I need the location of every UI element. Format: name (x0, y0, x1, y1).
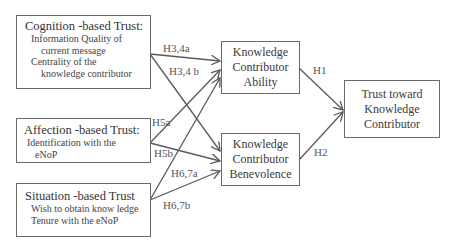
cognition-item-3: Centrality of the (25, 56, 150, 68)
label-h2: H2 (314, 146, 327, 158)
cognition-item-1: Information Quality of (25, 33, 150, 45)
ability-line-3: Ability (243, 75, 277, 90)
benevolence-line-3: Benevolence (230, 167, 292, 182)
benevolence-line-2: Contributor (233, 152, 289, 167)
trust-line-2: Knowledge (364, 102, 419, 117)
edge-cognition-ability (150, 54, 220, 61)
ability-line-1: Knowledge (233, 45, 288, 60)
cognition-item-2: current message (25, 45, 150, 57)
affection-based-trust-box: Affection -based Trust: Identification w… (16, 118, 151, 163)
ability-line-2: Contributor (233, 60, 289, 75)
label-h1: H1 (313, 64, 326, 76)
trust-line-1: Trust toward (361, 87, 422, 102)
cognition-item-4: knowledge contributor (25, 68, 150, 80)
trust-line-3: Contributor (364, 117, 420, 132)
edge-affection-ability (150, 70, 220, 143)
label-h34a: H3,4a (163, 42, 190, 54)
label-h34b: H3,4 b (169, 65, 199, 77)
affection-item-1: Identification with the (24, 137, 150, 149)
situation-based-trust-box: Situation -based Trust Wish to obtain kn… (16, 183, 151, 237)
benevolence-line-1: Knowledge (233, 137, 288, 152)
affection-item-2: eNoP (24, 149, 150, 161)
cognition-title: Cognition -based Trust: (25, 19, 150, 33)
cognition-based-trust-box: Cognition -based Trust: Information Qual… (16, 15, 151, 89)
knowledge-contributor-benevolence-box: Knowledge Contributor Benevolence (221, 133, 300, 186)
situation-title: Situation -based Trust (25, 189, 150, 203)
trust-toward-knowledge-contributor-box: Trust toward Knowledge Contributor (344, 80, 440, 138)
label-h5a: H5a (152, 116, 170, 128)
label-h5b: H5b (154, 147, 173, 159)
situation-item-2: Tenure with the eNoP (25, 215, 150, 227)
label-h67a: H6,7a (171, 167, 198, 179)
edge-situation-ability (150, 78, 220, 200)
affection-title: Affection -based Trust: (24, 123, 150, 137)
knowledge-contributor-ability-box: Knowledge Contributor Ability (221, 41, 300, 94)
label-h67b: H6,7b (163, 199, 190, 211)
situation-item-1: Wish to obtain know ledge (25, 203, 150, 215)
